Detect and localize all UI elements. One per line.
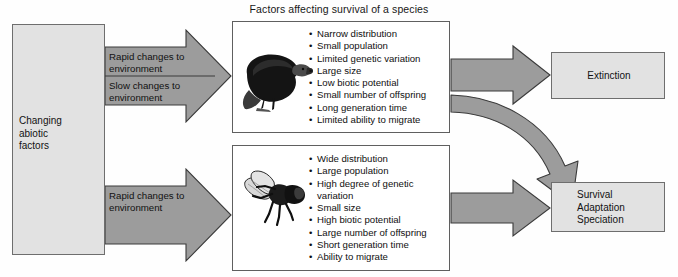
factor-item: Short generation time <box>309 239 449 251</box>
arrow-label-rapid-changes-bottom: Rapid changes to environment <box>109 190 229 213</box>
outcome-box-survival: Survival Adaptation Speciation <box>551 182 665 232</box>
factor-item: Ability to migrate <box>309 251 449 263</box>
factor-item: High degree of genetic variation <box>309 178 449 203</box>
factor-item: Large population <box>309 165 449 177</box>
fly-illustration <box>239 162 313 242</box>
factor-item: Small size <box>309 202 449 214</box>
outcome-label-extinction: Extinction <box>552 70 666 83</box>
factor-item: Wide distribution <box>309 153 449 165</box>
factor-panel-top: Narrow distribution Small population Lim… <box>232 21 450 133</box>
factor-item: Small number of offspring <box>309 89 449 101</box>
factor-item: Large number of offspring <box>309 227 449 239</box>
factor-list-bottom: Wide distribution Large population High … <box>309 153 449 264</box>
vulture-illustration <box>239 38 313 118</box>
outcome-label-survival: Survival Adaptation Speciation <box>577 189 667 227</box>
factor-item: Small population <box>309 40 449 52</box>
factor-item: Low biotic potential <box>309 77 449 89</box>
page-title: Factors affecting survival of a species <box>0 3 678 15</box>
factor-item: Limited ability to migrate <box>309 114 449 126</box>
factor-item: Limited genetic variation <box>309 53 449 65</box>
factor-item: Large size <box>309 65 449 77</box>
factor-item: Narrow distribution <box>309 28 449 40</box>
factor-list-top: Narrow distribution Small population Lim… <box>309 28 449 126</box>
arrow-rapid-to-bottom-panel <box>105 169 231 261</box>
arrow-bottom-panel-to-survival <box>451 180 550 236</box>
diagram-canvas: Factors affecting survival of a species … <box>0 0 678 277</box>
changing-abiotic-factors-label: Changing abiotic factors <box>19 115 99 153</box>
arrow-label-slow-changes: Slow changes to environment <box>109 80 229 103</box>
arrow-top-panel-to-extinction <box>451 46 550 104</box>
outcome-box-extinction: Extinction <box>551 52 665 99</box>
factor-item: Long generation time <box>309 102 449 114</box>
arrow-label-rapid-changes-top: Rapid changes to environment <box>109 51 229 74</box>
factor-panel-bottom: Wide distribution Large population High … <box>232 145 450 271</box>
factor-item: High biotic potential <box>309 214 449 226</box>
